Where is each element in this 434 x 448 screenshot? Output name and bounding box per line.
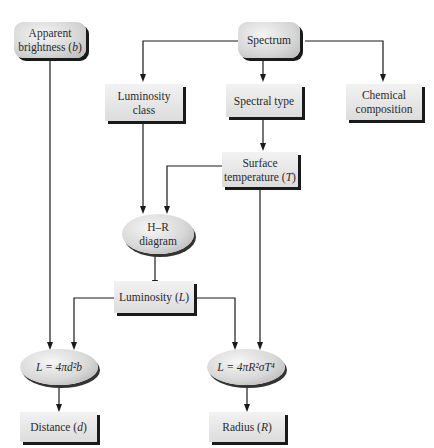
node-label: Luminosity	[119, 291, 172, 303]
node-label: Spectral type	[234, 94, 294, 108]
node-radius: Radius (R)	[209, 412, 285, 442]
node-surface-temperature: Surface temperature (T)	[222, 152, 298, 187]
node-hr-diagram: H–R diagram	[122, 214, 194, 254]
node-equation-distance: L = 4πd²b	[20, 349, 98, 385]
node-label: Luminosity class	[117, 89, 170, 117]
node-luminosity-class: Luminosity class	[105, 84, 183, 121]
node-label: Radius	[222, 421, 254, 433]
node-label: Distance	[30, 421, 70, 433]
node-label: Surface temperature	[224, 157, 279, 183]
node-variable: L	[179, 291, 185, 303]
node-spectrum: Spectrum	[238, 22, 300, 58]
node-equation-radius: L = 4πR²σT⁴	[207, 349, 285, 385]
node-distance: Distance (d)	[20, 412, 97, 442]
node-luminosity: Luminosity (L)	[114, 281, 194, 313]
node-label: H–R diagram	[139, 220, 177, 248]
node-variable: b	[72, 41, 78, 53]
node-variable: d	[77, 421, 83, 433]
node-spectral-type: Spectral type	[226, 84, 302, 117]
node-label: L = 4πR²σT⁴	[217, 360, 275, 374]
node-variable: R	[261, 421, 268, 433]
node-variable: T	[286, 171, 292, 183]
node-label: Chemical composition	[352, 88, 416, 116]
node-label: Apparent brightness	[18, 27, 71, 53]
node-label: L = 4πd²b	[36, 360, 82, 374]
node-chemical-composition: Chemical composition	[346, 84, 422, 120]
node-label: Spectrum	[247, 33, 291, 47]
node-apparent-brightness: Apparent brightness (b)	[14, 22, 86, 58]
